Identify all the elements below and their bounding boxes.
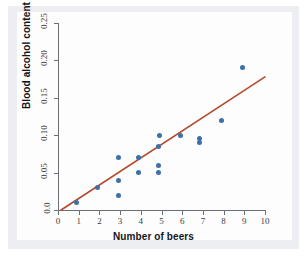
figure: 012345678910 0.00.050.100.150.200.25 Num… xyxy=(0,0,307,261)
x-tick-label: 8 xyxy=(214,216,234,226)
data-point xyxy=(74,200,79,205)
x-tick-label: 1 xyxy=(69,216,89,226)
x-tick-label: 9 xyxy=(234,216,254,226)
data-point xyxy=(156,170,161,175)
x-tick xyxy=(182,211,183,215)
data-point xyxy=(95,185,100,190)
data-point xyxy=(116,193,121,198)
x-tick xyxy=(244,211,245,215)
y-tick-label: 0.0 xyxy=(0,203,52,213)
data-point xyxy=(116,178,121,183)
x-tick xyxy=(141,211,142,215)
x-tick xyxy=(79,211,80,215)
x-tick-label: 4 xyxy=(131,216,151,226)
data-point xyxy=(240,65,245,70)
x-tick-label: 3 xyxy=(110,216,130,226)
x-tick xyxy=(162,211,163,215)
scatter-points xyxy=(58,23,265,210)
x-tick xyxy=(224,211,225,215)
data-point xyxy=(178,133,183,138)
x-tick xyxy=(203,211,204,215)
data-point xyxy=(219,118,224,123)
x-tick-label: 10 xyxy=(255,216,275,226)
y-axis-label: Blood alcohol content xyxy=(21,0,32,126)
x-tick-label: 0 xyxy=(48,216,68,226)
x-tick-label: 5 xyxy=(152,216,172,226)
data-point xyxy=(136,155,141,160)
x-tick xyxy=(265,211,266,215)
x-tick xyxy=(58,211,59,215)
x-tick-label: 6 xyxy=(172,216,192,226)
x-tick-label: 7 xyxy=(193,216,213,226)
y-tick-label: 0.10 xyxy=(0,128,52,138)
y-tick xyxy=(54,210,58,211)
data-point xyxy=(136,170,141,175)
data-point xyxy=(156,144,161,149)
y-tick-label: 0.05 xyxy=(0,166,52,176)
data-point xyxy=(156,163,161,168)
data-point xyxy=(116,155,121,160)
x-tick-label: 2 xyxy=(89,216,109,226)
x-tick xyxy=(120,211,121,215)
data-point xyxy=(157,133,162,138)
x-axis-label: Number of beers xyxy=(0,231,307,242)
x-tick xyxy=(99,211,100,215)
